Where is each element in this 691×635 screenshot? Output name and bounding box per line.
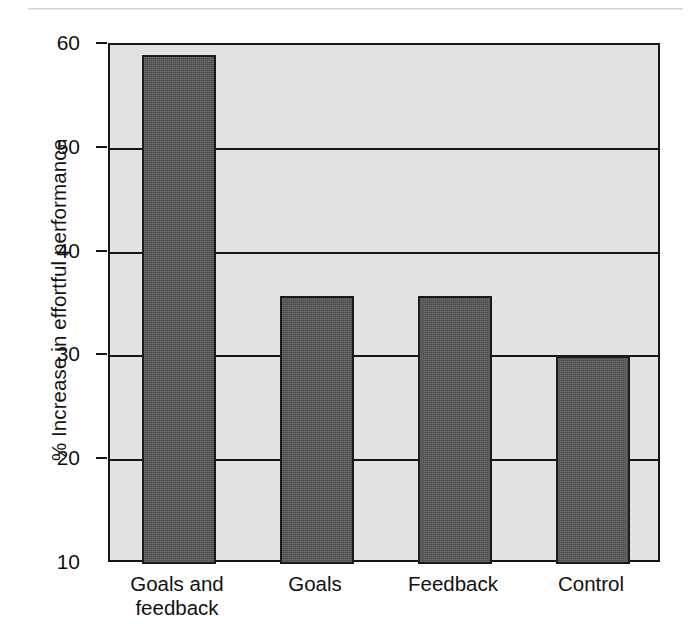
bar xyxy=(280,296,354,564)
y-tick-label: 50 xyxy=(16,135,80,159)
y-tick-mark xyxy=(96,250,107,252)
bar xyxy=(142,55,216,564)
x-tick-label: Control xyxy=(558,572,624,596)
scan-artifact-line xyxy=(28,8,683,9)
x-tick-label: Feedback xyxy=(408,572,498,596)
y-tick-mark xyxy=(96,457,107,459)
x-tick-label: Goals xyxy=(288,572,342,596)
y-tick-label: 40 xyxy=(16,239,80,263)
x-tick-label: Goals and feedback xyxy=(130,572,223,620)
bar xyxy=(418,296,492,564)
y-tick-mark xyxy=(96,353,107,355)
bar-chart-figure: % Increase in effortful performance 6050… xyxy=(0,0,691,635)
y-tick-label: 10 xyxy=(16,550,80,574)
plot-area xyxy=(108,43,660,562)
y-tick-label: 60 xyxy=(16,31,80,55)
y-tick-mark xyxy=(96,42,107,44)
bar xyxy=(556,356,630,564)
y-tick-label: 20 xyxy=(16,446,80,470)
y-tick-label: 30 xyxy=(16,342,80,366)
y-tick-mark xyxy=(96,146,107,148)
